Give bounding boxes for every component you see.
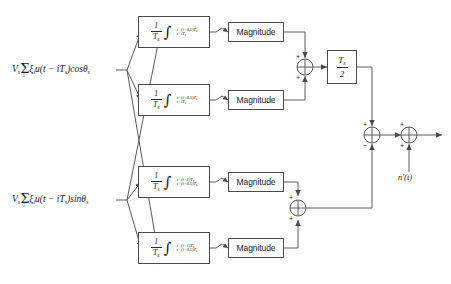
summer-top-sign-plus-1: + [296,53,300,60]
integral-sign-icon: ∫ [164,97,172,104]
wire-layer [0,0,451,284]
integrator-block-1[interactable]: 1 Ts ∫ t+(i+0.5)Ts t+iTs [138,16,210,48]
summation-symbol-sin: Σi [20,191,29,206]
input-label-cos: VsΣiξiu(t − iTs)cosθs [12,61,90,76]
summation-index-sin: i [23,202,25,208]
integrator-block-4[interactable]: 1 Ts ∫ t+(i+1)Ts t+(i+0.5)Ts [138,232,210,264]
integrator-4-integral: ∫ t+(i+1)Ts t+(i+0.5)Ts [164,235,197,261]
integrator-2-lower-limit: t+iTs [177,99,197,105]
integral-sign-icon: ∫ [164,245,172,252]
block-diagram-canvas: VsΣiξiu(t − iTs)cosθs VsΣiξiu(t − iTs)si… [0,0,451,284]
gain-denominator: 2 [340,70,345,79]
magnitude-2-label: Magnitude [237,95,276,105]
integrator-1-coefficient: 1 Ts [151,22,162,42]
gain-numerator: Ts [338,56,345,66]
magnitude-block-2[interactable]: Magnitude [228,90,284,110]
integral-sign-icon: ∫ [164,179,172,186]
input-label-sin: VsΣiξiu(t − iTs)sinθs [12,191,88,206]
integrator-1-integral: ∫ t+(i+0.5)Ts t+iTs [164,19,197,45]
input-cos-u: u(t − iT [35,64,65,74]
input-sin-theta-sub: s [86,199,88,205]
summation-symbol-cos: Σi [20,61,29,76]
integrator-block-2[interactable]: 1 Ts ∫ t+(i+0.5)Ts t+iTs [138,84,210,116]
summer-output-sign-plus-2: + [400,142,404,149]
integrator-1-lower-limit: t+iTs [177,31,197,37]
summer-top-sign-plus-2: + [296,74,300,81]
magnitude-block-3[interactable]: Magnitude [228,172,284,192]
integrator-2-integral: ∫ t+(i+0.5)Ts t+iTs [164,87,197,113]
magnitude-1-label: Magnitude [237,27,276,37]
summer-diff-sign-minus: − [363,142,367,149]
input-cos-trig: )cosθ [67,64,88,74]
integrator-block-3[interactable]: 1 Ts ∫ t+(i+1)Ts t+(i+0.5)Ts [138,166,210,198]
integrator-3-integral: ∫ t+(i+1)Ts t+(i+0.5)Ts [164,169,197,195]
input-sin-u: u(t − iT [35,194,65,204]
magnitude-3-label: Magnitude [237,177,276,187]
summer-bottom-sign-plus-2: + [289,215,293,222]
input-sin-trig: )sinθ [67,194,86,204]
summer-bottom-sign-plus-1: + [289,194,293,201]
magnitude-block-4[interactable]: Magnitude [228,238,284,258]
integral-sign-icon: ∫ [164,29,172,36]
integrator-4-coefficient: 1 Ts [151,238,162,258]
gain-block-ts-over-2[interactable]: Ts 2 [327,50,357,84]
integrator-3-lower-limit: t+(i+0.5)Ts [177,181,197,187]
summer-output-sign-plus-1: + [400,121,404,128]
magnitude-4-label: Magnitude [237,243,276,253]
magnitude-block-1[interactable]: Magnitude [228,22,284,42]
input-cos-theta-sub: s [88,69,90,75]
integrator-4-lower-limit: t+(i+0.5)Ts [177,247,197,253]
integrator-2-coefficient: 1 Ts [151,90,162,110]
summer-diff-sign-plus: + [363,121,367,128]
output-signal-label: n′(t) [398,172,412,182]
summation-index-cos: i [23,72,25,78]
integrator-3-coefficient: 1 Ts [151,172,162,192]
